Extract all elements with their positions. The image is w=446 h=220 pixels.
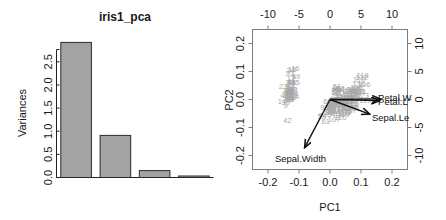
screeplot-y-tick-label: 0.0 — [42, 170, 54, 185]
biplot-right-tick-label: 10 — [413, 37, 425, 49]
screeplot-bar — [100, 135, 131, 177]
biplot-right-tick-label: 5 — [413, 68, 425, 74]
biplot-top-axis: -10-50510 — [260, 8, 398, 30]
screeplot-bars — [61, 42, 209, 177]
biplot-bottom-tick-label: 0.0 — [322, 176, 337, 188]
biplot-point-label: 34 — [286, 66, 294, 75]
screeplot-y-tick-label: 1.5 — [42, 100, 54, 115]
biplot-bottom-axis: -0.2-0.10.00.10.2 — [259, 170, 400, 189]
screeplot-svg: iris1_pca 0.00.51.01.52.02.5 Variances — [0, 0, 223, 220]
biplot-point-label: 149 — [346, 85, 359, 94]
biplot-left-tick-label: -0.1 — [234, 118, 246, 137]
biplot-left-axis: -0.2-0.10.00.10.2 — [234, 36, 253, 165]
biplot-top-tick-label: 5 — [358, 8, 364, 20]
biplot-bottom-tick-label: -0.1 — [290, 176, 309, 188]
screeplot-panel: iris1_pca 0.00.51.01.52.02.5 Variances — [0, 0, 223, 220]
screeplot-y-tick-label: 2.5 — [42, 54, 54, 69]
screeplot-ylabel: Variances — [16, 88, 28, 137]
screeplot-y-tick-label: 0.5 — [42, 147, 54, 162]
screeplot-y-tick-label: 1.0 — [42, 124, 54, 139]
biplot-bottom-tick-label: 0.1 — [353, 176, 368, 188]
biplot-bottom-tick-label: -0.2 — [259, 176, 278, 188]
screeplot-bar — [179, 176, 210, 178]
screeplot-y-tick-label: 2.0 — [42, 77, 54, 92]
biplot-top-tick-label: -10 — [260, 8, 276, 20]
screeplot-bar — [139, 171, 170, 178]
biplot-point-label: 49 — [287, 78, 295, 87]
biplot-top-tick-label: 10 — [386, 8, 398, 20]
screeplot-title: iris1_pca — [99, 10, 151, 24]
biplot-panel: -10-50510 -10-50510 -0.2-0.10.00.10.2 -0… — [223, 0, 446, 220]
biplot-ylabel: PC2 — [223, 89, 235, 110]
biplot-left-tick-label: 0.1 — [234, 64, 246, 79]
biplot-left-tick-label: 0.0 — [234, 92, 246, 107]
screeplot-y-axis: 0.00.51.01.52.02.5 — [42, 50, 60, 186]
biplot-right-tick-label: -5 — [413, 123, 425, 133]
biplot-right-tick-label: 0 — [413, 96, 425, 102]
biplot-point-labels: 1234567891011121314151617181920212223242… — [278, 64, 371, 126]
biplot-arrow-label: Petal.L — [378, 96, 408, 107]
biplot-svg: -10-50510 -10-50510 -0.2-0.10.00.10.2 -0… — [223, 0, 446, 220]
biplot-top-tick-label: -5 — [294, 8, 304, 20]
biplot-left-tick-label: 0.2 — [234, 36, 246, 51]
biplot-point-label: 42 — [283, 116, 291, 125]
biplot-right-tick-label: -10 — [413, 148, 425, 164]
biplot-point-label: 50 — [285, 88, 293, 97]
biplot-left-tick-label: -0.2 — [234, 146, 246, 165]
biplot-bottom-tick-label: 0.2 — [384, 176, 399, 188]
screeplot-bar — [61, 42, 92, 177]
r-plot-window: iris1_pca 0.00.51.01.52.02.5 Variances -… — [0, 0, 446, 220]
biplot-xlabel: PC1 — [319, 201, 340, 213]
biplot-arrow-label: Sepal.Le — [372, 112, 410, 123]
biplot-top-tick-label: 0 — [327, 8, 333, 20]
biplot-arrow-label: Sepal.Width — [275, 153, 326, 164]
